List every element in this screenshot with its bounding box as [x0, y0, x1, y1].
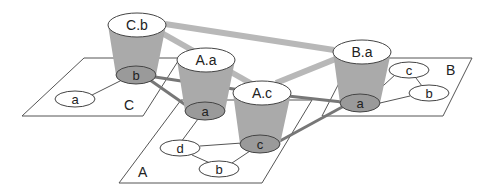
- cylinder-c-b-bottom-label: b: [132, 68, 139, 83]
- cylinder-b-a-top-label: B.a: [351, 44, 372, 60]
- node-a-b[interactable]: b: [199, 161, 239, 177]
- node-b-c[interactable]: c: [389, 62, 429, 78]
- node-c-a-label: a: [71, 92, 79, 107]
- node-b-b-label: b: [425, 86, 432, 101]
- hierarchical-graph-diagram: C B A a d b c: [0, 0, 496, 195]
- top-edge-ac-to-ba: [276, 58, 338, 83]
- cylinder-a-a-top-label: A.a: [195, 52, 216, 68]
- cylinder-a-c-top-label: A.c: [252, 85, 272, 101]
- node-a-d-label: d: [176, 141, 183, 156]
- node-a-d[interactable]: d: [160, 140, 200, 156]
- node-b-c-label: c: [406, 63, 413, 78]
- diagram-canvas: C B A a d b c: [0, 0, 496, 195]
- node-a-b-label: b: [215, 162, 222, 177]
- node-b-b[interactable]: b: [409, 85, 449, 101]
- node-c-a[interactable]: a: [55, 91, 95, 107]
- cylinder-a-a-bottom-label: a: [201, 104, 209, 119]
- plane-a-label: A: [138, 164, 148, 180]
- cylinder-c-b-top-label: C.b: [126, 17, 148, 33]
- cylinder-a-c-bottom-label: c: [257, 137, 264, 152]
- plane-b-label: B: [446, 62, 455, 78]
- cylinder-b-a-bottom-label: a: [356, 96, 364, 111]
- plane-c-label: C: [124, 97, 134, 113]
